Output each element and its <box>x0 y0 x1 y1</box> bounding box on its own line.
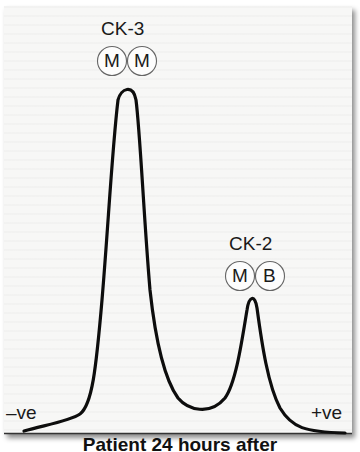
subunit-m-1: M <box>104 50 120 72</box>
subunit-b: B <box>263 265 276 287</box>
axis-label-negative: –ve <box>6 402 37 424</box>
peak-label-ck2: CK-2 <box>229 233 272 255</box>
figure-caption: Patient 24 hours after <box>0 434 360 452</box>
electrophoresis-trace <box>24 89 345 433</box>
electrophoresis-plot <box>0 0 360 452</box>
subunit-m: M <box>232 265 248 287</box>
axis-label-positive: +ve <box>311 402 342 424</box>
subunit-m-2: M <box>134 50 150 72</box>
peak-label-ck3: CK-3 <box>101 18 144 40</box>
